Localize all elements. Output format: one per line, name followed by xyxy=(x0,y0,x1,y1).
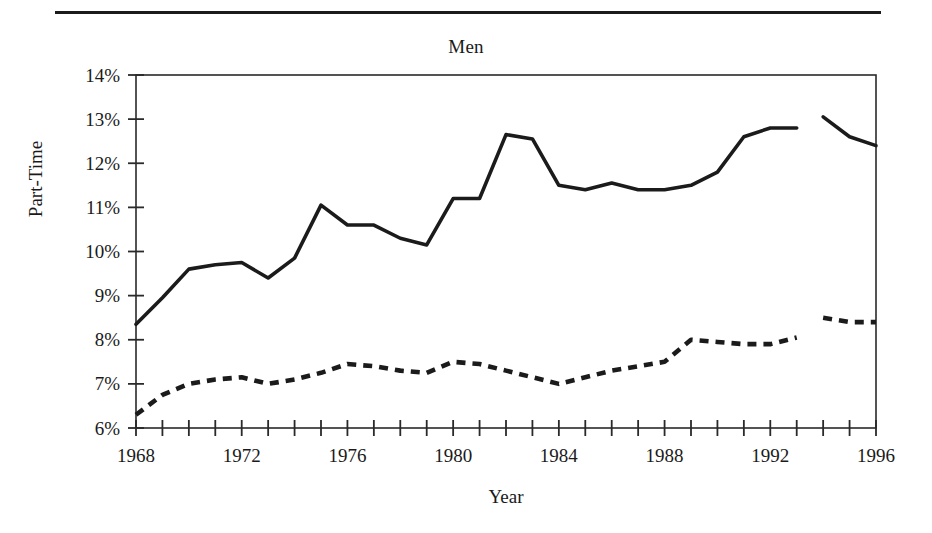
plot-area: 6%7%8%9%10%11%12%13%14% 1968197219761980… xyxy=(0,0,932,533)
y-tick-label: 10% xyxy=(85,241,120,262)
y-tick-label: 12% xyxy=(85,153,120,174)
x-tick-label: 1968 xyxy=(117,445,155,466)
x-tick-label: 1992 xyxy=(751,445,789,466)
y-tick-label: 13% xyxy=(85,109,120,130)
y-axis-ticks: 6%7%8%9%10%11%12%13%14% xyxy=(85,65,144,439)
x-tick-label: 1980 xyxy=(434,445,472,466)
chart-figure: Men Part-Time Year 6%7%8%9%10%11%12%13%1… xyxy=(0,0,932,533)
series-line-solid-series xyxy=(823,117,876,146)
y-tick-label: 11% xyxy=(86,197,120,218)
x-tick-label: 1996 xyxy=(857,445,895,466)
x-tick-label: 1984 xyxy=(540,445,579,466)
y-tick-label: 7% xyxy=(95,373,121,394)
y-tick-label: 8% xyxy=(95,329,121,350)
y-tick-label: 6% xyxy=(95,418,121,439)
data-series-layer xyxy=(136,117,876,415)
series-line-solid-series xyxy=(136,128,797,324)
x-tick-label: 1972 xyxy=(223,445,261,466)
y-tick-label: 9% xyxy=(95,285,121,306)
series-line-dashed-series xyxy=(823,318,876,322)
x-axis-ticks: 19681972197619801984198819921996 xyxy=(117,420,895,466)
x-tick-label: 1976 xyxy=(328,445,366,466)
x-tick-label: 1988 xyxy=(646,445,684,466)
series-line-dashed-series xyxy=(136,338,797,415)
y-tick-label: 14% xyxy=(85,65,120,86)
